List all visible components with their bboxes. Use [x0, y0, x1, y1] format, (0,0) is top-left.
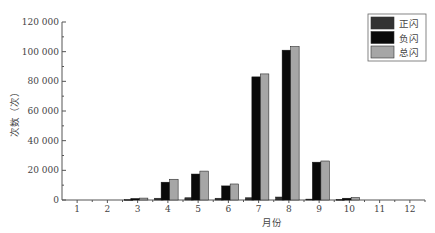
legend-swatch: [371, 32, 394, 44]
bar-negative: [161, 182, 170, 200]
x-tick-label: 11: [374, 204, 385, 214]
x-tick-label: 6: [226, 204, 232, 214]
bar-total: [139, 198, 148, 200]
y-tick-label: 20 000: [28, 165, 60, 175]
bar-negative: [282, 50, 291, 200]
y-tick-label: 80 000: [28, 76, 60, 86]
legend-label: 总闪: [399, 47, 419, 58]
bar-negative: [343, 198, 352, 200]
x-axis-title: 月份: [262, 217, 282, 228]
legend-label: 正闪: [399, 18, 419, 29]
x-tick-label: 9: [316, 204, 322, 214]
bar-total: [321, 161, 330, 200]
legend: 正闪负闪总闪: [368, 14, 426, 61]
bar-total: [260, 74, 269, 200]
bar-total: [351, 197, 360, 200]
x-tick-label: 3: [135, 204, 141, 214]
y-tick-label: 0: [53, 195, 59, 205]
legend-swatch: [371, 17, 394, 29]
x-tick-label: 4: [165, 204, 171, 214]
bar-negative: [131, 199, 140, 200]
lightning-monthly-bar-chart: 020 00040 00060 00080 000100 000120 000 …: [0, 0, 435, 233]
bar-negative: [222, 186, 231, 200]
y-tick-label: 60 000: [28, 106, 60, 116]
x-tick-label: 12: [404, 204, 415, 214]
x-tick-label: 1: [74, 204, 80, 214]
y-axis-title: 次数（次）: [9, 87, 20, 137]
bar-total: [291, 46, 300, 200]
legend-swatch: [371, 46, 394, 58]
x-tick-label: 5: [195, 204, 201, 214]
x-axis: 123456789101112: [62, 200, 425, 214]
y-tick-label: 120 000: [22, 17, 59, 27]
y-tick-label: 100 000: [22, 47, 59, 57]
y-tick-label: 40 000: [28, 136, 60, 146]
x-tick-label: 8: [286, 204, 292, 214]
x-tick-label: 7: [256, 204, 262, 214]
bar-total: [230, 184, 239, 200]
bars: [124, 46, 359, 200]
bar-total: [170, 179, 179, 200]
legend-label: 负闪: [399, 33, 419, 44]
y-axis: 020 00040 00060 00080 000100 000120 000: [22, 17, 66, 205]
x-tick-label: 2: [105, 204, 111, 214]
bar-negative: [191, 174, 200, 200]
x-tick-label: 10: [344, 204, 356, 214]
bar-negative: [252, 77, 261, 200]
bar-negative: [312, 162, 321, 200]
bar-total: [200, 171, 209, 200]
